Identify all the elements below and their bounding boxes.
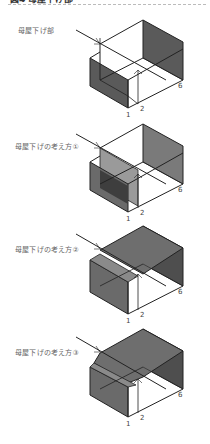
figure-panel-approach-1: 母屋下げの考え方① 6 2 1 <box>0 110 210 220</box>
figure-panel-approach-3: 母屋下げの考え方③ 6 2 1 <box>0 325 210 444</box>
isometric-box-diagram: 6 2 1 <box>70 18 200 118</box>
point-number: 2 <box>140 209 144 217</box>
figure-panel-approach-2: 母屋下げの考え方② 6 2 1 <box>0 220 210 325</box>
point-number: 1 <box>126 420 130 428</box>
isometric-box-diagram: 6 2 1 <box>70 122 200 222</box>
isometric-box-diagram: 6 2 1 <box>70 224 200 324</box>
point-number: 6 <box>178 82 183 90</box>
point-number: 2 <box>140 414 144 422</box>
point-number: 2 <box>140 311 144 319</box>
figure-label: 母屋下げ部 <box>18 25 54 35</box>
point-number: 6 <box>178 288 183 296</box>
point-number: 1 <box>126 317 130 325</box>
isometric-box-diagram: 6 2 1 <box>70 327 200 427</box>
point-number: 6 <box>178 186 183 194</box>
point-number: 6 <box>178 391 183 399</box>
figure-panel-base: 母屋下げ部 6 2 1 <box>0 0 210 110</box>
